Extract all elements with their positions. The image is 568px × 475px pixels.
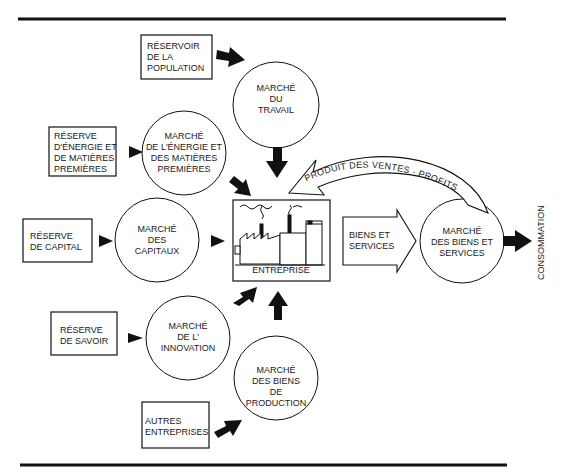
svg-text:RÉSERVE: RÉSERVE — [30, 231, 73, 241]
arrow-energie-reserve-to-market — [129, 146, 143, 158]
market-production-circle: MARCHÉ DES BIENS DE PRODUCTION — [234, 336, 318, 420]
reserve-energie-line-1: RÉSERVE — [54, 131, 97, 141]
svg-text:DES BIENS ET: DES BIENS ET — [431, 237, 494, 247]
arrow-production-to-entreprise — [268, 291, 288, 320]
market-production-line-2: DES BIENS — [252, 376, 300, 386]
svg-text:PREMIÈRES: PREMIÈRES — [54, 164, 107, 174]
enterprise-box: ENTREPRISE — [233, 200, 330, 281]
svg-text:TRAVAIL: TRAVAIL — [258, 105, 294, 115]
reserve-population-line-2: DE LA — [147, 52, 173, 62]
svg-text:PRODUCTION: PRODUCTION — [246, 398, 307, 408]
market-production-line-4: PRODUCTION — [246, 398, 307, 408]
svg-text:MARCHÉ: MARCHÉ — [442, 226, 481, 236]
svg-text:DE L': DE L' — [177, 332, 199, 342]
market-energie-circle: MARCHÉ DE L'ÉNERGIE ET DES MATIÈRES PREM… — [142, 111, 226, 195]
svg-text:SERVICES: SERVICES — [439, 248, 484, 258]
market-production-line-3: DE — [270, 387, 283, 397]
market-capitaux-line-3: CAPITAUX — [135, 246, 179, 256]
market-biens-services-line-1: MARCHÉ — [442, 226, 481, 236]
svg-text:AUTRES: AUTRES — [145, 416, 182, 426]
reserve-capital-box: RÉSERVE DE CAPITAL — [23, 219, 92, 262]
svg-text:RÉSERVE: RÉSERVE — [60, 325, 103, 335]
reserve-energie-line-2: D'ÉNERGIE ET — [54, 142, 117, 152]
arrow-capitaux-to-entreprise — [211, 235, 225, 247]
svg-text:INNOVATION: INNOVATION — [161, 343, 216, 353]
reserve-energie-line-4: PREMIÈRES — [54, 164, 107, 174]
svg-text:MARCHÉ: MARCHÉ — [164, 131, 203, 141]
market-travail-line-3: TRAVAIL — [258, 105, 294, 115]
svg-text:DES: DES — [148, 235, 167, 245]
arrow-savoir-reserve-to-market — [128, 333, 143, 343]
market-innovation-line-2: DE L' — [177, 332, 199, 342]
svg-text:D'ÉNERGIE ET: D'ÉNERGIE ET — [54, 142, 117, 152]
svg-text:RÉSERVE: RÉSERVE — [54, 131, 97, 141]
svg-text:DES MATIÈRES: DES MATIÈRES — [151, 153, 217, 163]
arrow-travail-to-entreprise — [266, 147, 288, 178]
market-biens-services-line-3: SERVICES — [439, 248, 484, 258]
market-energie-line-1: MARCHÉ — [164, 131, 203, 141]
svg-text:PREMIÈRES: PREMIÈRES — [157, 164, 210, 174]
reserve-capital-line-1: RÉSERVE — [30, 231, 73, 241]
reserve-population-box: RÉSERVOIR DE LA POPULATION — [141, 35, 212, 79]
market-travail-line-2: DU — [270, 94, 283, 104]
market-energie-line-3: DES MATIÈRES — [151, 153, 217, 163]
svg-text:DE: DE — [270, 387, 283, 397]
svg-text:MARCHÉ: MARCHÉ — [256, 365, 295, 375]
reserve-population-line-3: POPULATION — [147, 63, 204, 73]
market-biens-services-line-2: DES BIENS ET — [431, 237, 494, 247]
market-capitaux-circle: MARCHÉ DES CAPITAUX — [115, 198, 199, 282]
reserve-capital-line-2: DE CAPITAL — [30, 242, 82, 252]
svg-text:DU: DU — [270, 94, 283, 104]
svg-text:RÉSERVOIR: RÉSERVOIR — [147, 41, 200, 51]
svg-text:ENTREPRISES: ENTREPRISES — [145, 427, 209, 437]
reserve-autres-line-2: ENTREPRISES — [145, 427, 209, 437]
svg-text:MARCHÉ: MARCHÉ — [137, 224, 176, 234]
arrow-population-to-travail — [216, 47, 245, 67]
svg-text:MARCHÉ: MARCHÉ — [168, 321, 207, 331]
svg-text:ENTREPRISE: ENTREPRISE — [252, 265, 310, 275]
reserve-savoir-box: RÉSERVE DE SAVOIR — [51, 312, 117, 355]
market-innovation-line-3: INNOVATION — [161, 343, 216, 353]
svg-text:DES BIENS: DES BIENS — [252, 376, 300, 386]
market-innovation-line-1: MARCHÉ — [168, 321, 207, 331]
svg-text:POPULATION: POPULATION — [147, 63, 204, 73]
reserve-autres-line-1: AUTRES — [145, 416, 182, 426]
arrow-innovation-to-entreprise — [233, 287, 257, 306]
market-energie-line-2: DE L'ÉNERGIE ET — [146, 142, 223, 152]
economic-flow-diagram: RÉSERVOIR DE LA POPULATION RÉSERVE D'ÉNE… — [0, 0, 568, 475]
reserve-savoir-line-2: DE SAVOIR — [60, 336, 109, 346]
svg-text:CONSOMMATION: CONSOMMATION — [536, 205, 546, 280]
consommation-label: CONSOMMATION — [536, 205, 546, 280]
reserve-energie-box: RÉSERVE D'ÉNERGIE ET DE MATIÈRES PREMIÈR… — [49, 127, 117, 176]
market-innovation-circle: MARCHÉ DE L' INNOVATION — [146, 296, 230, 380]
reserve-population-line-1: RÉSERVOIR — [147, 41, 200, 51]
svg-text:SERVICES: SERVICES — [349, 241, 394, 251]
svg-text:DE L'ÉNERGIE ET: DE L'ÉNERGIE ET — [146, 142, 223, 152]
market-travail-circle: MARCHÉ DU TRAVAIL — [233, 62, 319, 148]
arrow-autres-to-production — [214, 420, 242, 438]
output-label-line-1: BIENS ET — [349, 230, 391, 240]
svg-text:DE CAPITAL: DE CAPITAL — [30, 242, 82, 252]
arrow-capital-reserve-to-market — [99, 235, 113, 247]
svg-text:DE MATIÈRES: DE MATIÈRES — [54, 153, 114, 163]
arrow-to-consommation — [503, 230, 532, 252]
market-biens-services-circle: MARCHÉ DES BIENS ET SERVICES — [420, 199, 504, 283]
enterprise-label: ENTREPRISE — [252, 265, 310, 275]
market-travail-line-1: MARCHÉ — [256, 83, 295, 93]
arrow-energie-to-entreprise — [229, 176, 251, 196]
reserve-savoir-line-1: RÉSERVE — [60, 325, 103, 335]
svg-text:CAPITAUX: CAPITAUX — [135, 246, 179, 256]
market-capitaux-line-2: DES — [148, 235, 167, 245]
market-energie-line-4: PREMIÈRES — [157, 164, 210, 174]
svg-text:BIENS ET: BIENS ET — [349, 230, 391, 240]
svg-text:DE SAVOIR: DE SAVOIR — [60, 336, 109, 346]
output-label-line-2: SERVICES — [349, 241, 394, 251]
arrow-biens-services: BIENS ET SERVICES — [343, 210, 416, 272]
reserve-energie-line-3: DE MATIÈRES — [54, 153, 114, 163]
market-capitaux-line-1: MARCHÉ — [137, 224, 176, 234]
market-production-line-1: MARCHÉ — [256, 365, 295, 375]
svg-text:DE LA: DE LA — [147, 52, 173, 62]
reserve-autres-box: AUTRES ENTREPRISES — [142, 402, 209, 448]
svg-text:MARCHÉ: MARCHÉ — [256, 83, 295, 93]
